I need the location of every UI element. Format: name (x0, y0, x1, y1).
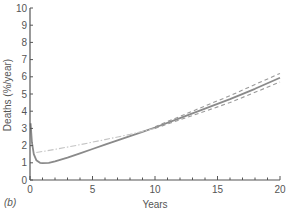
x-tick-label: 0 (27, 184, 33, 195)
x-axis-label: Years (142, 199, 167, 210)
y-tick-label: 4 (21, 106, 27, 117)
y-tick-label: 2 (21, 140, 27, 151)
y-axis-label: Deaths (%/year) (2, 59, 13, 131)
plot-lines (31, 73, 280, 163)
upper-confidence-limit-line (155, 73, 280, 126)
y-tick-label: 9 (21, 20, 27, 31)
y-tick-label: 1 (21, 157, 27, 168)
x-tick-label: 20 (274, 184, 286, 195)
late-phase-extrapolation-line (36, 128, 155, 152)
lower-confidence-limit-line (155, 82, 280, 128)
y-tick-label: 6 (21, 71, 27, 82)
y-tick-label: 7 (21, 54, 27, 65)
x-tick-label: 10 (149, 184, 161, 195)
hazard-chart-svg: 01234567891005101520 Deaths (%/year) Yea… (0, 0, 292, 212)
y-tick-label: 8 (21, 37, 27, 48)
chart: 01234567891005101520 Deaths (%/year) Yea… (0, 0, 292, 212)
x-tick-label: 15 (212, 184, 224, 195)
x-tick-label: 5 (90, 184, 96, 195)
y-tick-label: 5 (21, 89, 27, 100)
y-tick-label: 3 (21, 123, 27, 134)
panel-label: (b) (4, 197, 16, 208)
ticks: 01234567891005101520 (16, 3, 286, 196)
y-tick-label: 10 (16, 3, 28, 14)
